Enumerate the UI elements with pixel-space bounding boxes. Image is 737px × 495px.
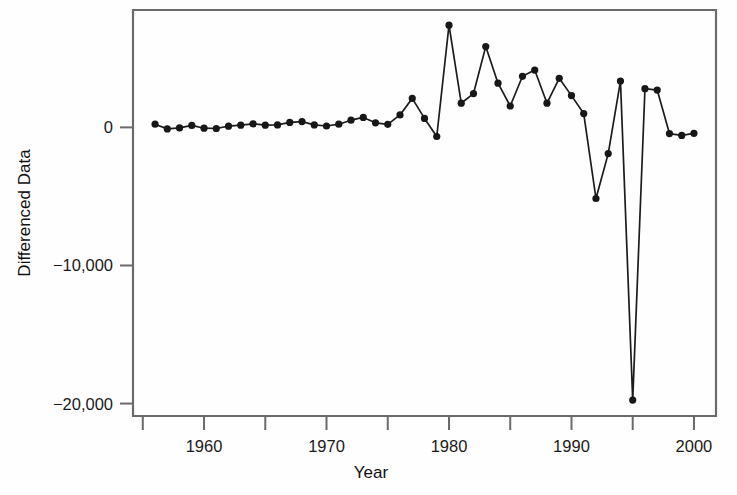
- figure-container: 0−10,000−20,000 19601970198019902000 Yea…: [0, 0, 737, 495]
- data-point: [298, 118, 305, 125]
- x-tick-label-1: 1970: [308, 437, 345, 455]
- data-point: [188, 122, 195, 129]
- data-point: [372, 119, 379, 126]
- data-point: [151, 121, 158, 128]
- data-point: [666, 130, 673, 137]
- data-point: [176, 124, 183, 131]
- data-point: [421, 115, 428, 122]
- data-point: [690, 130, 697, 137]
- data-point: [396, 111, 403, 118]
- data-point: [470, 90, 477, 97]
- y-axis-title: Differenced Data: [15, 149, 34, 277]
- data-point: [311, 121, 318, 128]
- plot-box-border: [133, 10, 716, 416]
- x-tick-label-4: 2000: [676, 437, 713, 455]
- x-axis-ticks: [143, 416, 694, 430]
- x-tick-label-0: 1960: [186, 437, 223, 455]
- y-tick-label-2: −20,000: [53, 395, 113, 413]
- line-chart: 0−10,000−20,000 19601970198019902000 Yea…: [0, 0, 737, 495]
- data-point: [286, 119, 293, 126]
- data-point: [507, 102, 514, 109]
- data-point: [335, 121, 342, 128]
- y-tick-label-0: 0: [104, 118, 113, 136]
- data-point: [556, 75, 563, 82]
- data-point: [641, 85, 648, 92]
- data-point: [200, 125, 207, 132]
- data-point: [445, 22, 452, 29]
- x-tick-label-3: 1990: [553, 437, 590, 455]
- data-point: [213, 125, 220, 132]
- data-point: [409, 95, 416, 102]
- series-line-differenced-data: [155, 25, 694, 400]
- data-point: [543, 100, 550, 107]
- data-point: [262, 122, 269, 129]
- data-point: [568, 92, 575, 99]
- data-point: [433, 133, 440, 140]
- y-tick-label-1: −10,000: [53, 256, 113, 274]
- series-markers: [151, 22, 697, 404]
- data-point: [580, 110, 587, 117]
- plot-frame: [133, 10, 716, 416]
- data-point: [531, 66, 538, 73]
- data-point: [605, 150, 612, 157]
- data-point: [482, 43, 489, 50]
- data-point: [494, 80, 501, 87]
- data-point: [678, 132, 685, 139]
- data-point: [274, 121, 281, 128]
- data-point: [592, 195, 599, 202]
- data-point: [164, 125, 171, 132]
- y-axis-tick-labels: 0−10,000−20,000: [53, 118, 113, 412]
- data-point: [617, 78, 624, 85]
- x-tick-label-2: 1980: [431, 437, 468, 455]
- x-axis-tick-labels: 19601970198019902000: [186, 437, 713, 455]
- data-point: [654, 87, 661, 94]
- x-axis-title: Year: [354, 463, 389, 482]
- data-point: [323, 122, 330, 129]
- data-point: [384, 121, 391, 128]
- data-series-group: [151, 22, 697, 404]
- data-point: [360, 114, 367, 121]
- data-point: [629, 397, 636, 404]
- data-point: [347, 117, 354, 124]
- data-point: [249, 120, 256, 127]
- data-point: [519, 73, 526, 80]
- data-point: [237, 122, 244, 129]
- data-point: [458, 100, 465, 107]
- data-point: [225, 123, 232, 130]
- y-axis-ticks: [120, 127, 133, 403]
